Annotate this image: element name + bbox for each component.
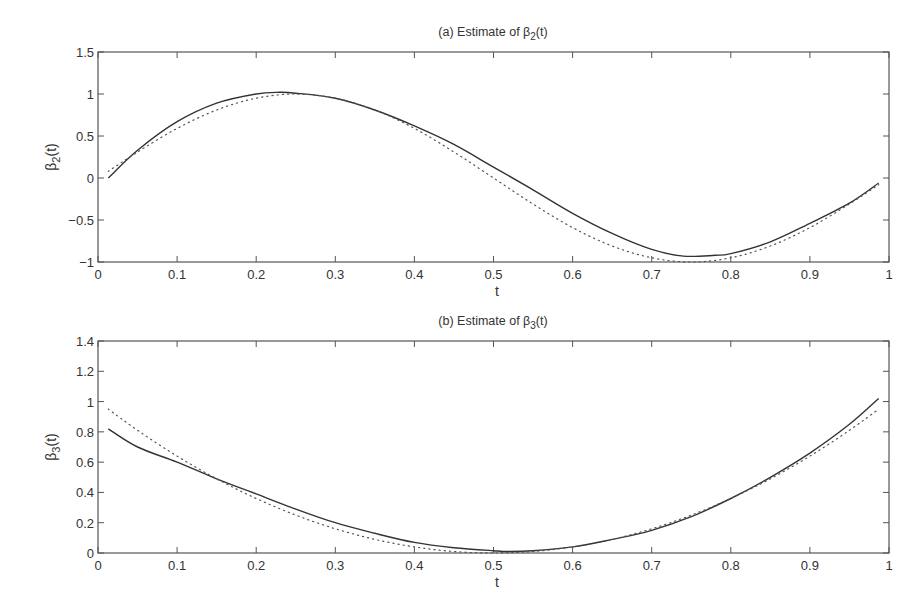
panel-a-true-line <box>108 94 878 262</box>
panel-a-estimate-line <box>108 92 878 256</box>
panel-b-x-tick-label: 0.3 <box>326 558 344 573</box>
panel-a-x-tick-label: 0 <box>94 267 101 282</box>
panel-b-x-tick-label: 0.8 <box>722 558 740 573</box>
panel-a-y-tick-label: −1 <box>79 255 94 270</box>
panel-a-x-tick-label: 0.8 <box>722 267 740 282</box>
panel-b-y-tick-label: 0.4 <box>76 485 94 500</box>
panel-b-plot-area: 00.10.20.30.40.50.60.70.80.9100.20.40.60… <box>76 334 893 573</box>
panel-a-title: (a) Estimate of β2(t) <box>438 25 547 42</box>
panel-a-axes-frame <box>98 52 889 262</box>
panel-a-x-tick-label: 0.1 <box>168 267 186 282</box>
figure: (a) Estimate of β2(t) 00.10.20.30.40.50.… <box>0 0 924 614</box>
panel-b-y-tick-label: 0.6 <box>76 455 94 470</box>
panel-a-x-tick-label: 0.9 <box>801 267 819 282</box>
panel-a-x-tick-label: 0.5 <box>484 267 502 282</box>
panel-b-x-tick-label: 0.9 <box>801 558 819 573</box>
panel-a-y-tick-label: 0.5 <box>76 129 94 144</box>
panel-a-x-label: t <box>495 283 499 299</box>
panel-b-estimate-line <box>108 399 878 552</box>
panel-b-y-tick-label: 0.8 <box>76 425 94 440</box>
panel-a-x-tick-label: 0.3 <box>326 267 344 282</box>
panel-a-y-tick-label: 0 <box>87 171 94 186</box>
panel-b-y-tick-label: 1 <box>87 395 94 410</box>
panel-b-x-tick-label: 0.6 <box>564 558 582 573</box>
panel-a-x-tick-label: 0.4 <box>405 267 423 282</box>
panel-a-y-tick-label: 1 <box>87 87 94 102</box>
panel-b-y-tick-label: 1.2 <box>76 364 94 379</box>
panel-b-axes-frame <box>98 341 889 553</box>
panel-a-x-tick-label: 0.7 <box>643 267 661 282</box>
panel-a-x-tick-label: 0.6 <box>564 267 582 282</box>
panel-a-x-tick-label: 1 <box>885 267 892 282</box>
panel-b-x-tick-label: 0.5 <box>484 558 502 573</box>
panel-b-y-tick-label: 1.4 <box>76 334 94 349</box>
panel-a-beta2-estimate: (a) Estimate of β2(t) 00.10.20.30.40.50.… <box>43 25 893 299</box>
panel-b-beta3-estimate: (b) Estimate of β3(t) 00.10.20.30.40.50.… <box>43 314 893 590</box>
panel-b-x-tick-label: 1 <box>885 558 892 573</box>
panel-b-y-tick-label: 0 <box>87 546 94 561</box>
panel-a-y-label: β2(t) <box>43 143 62 170</box>
panel-b-x-tick-label: 0.4 <box>405 558 423 573</box>
panel-b-y-tick-label: 0.2 <box>76 516 94 531</box>
panel-a-y-tick-label: −0.5 <box>68 213 94 228</box>
panel-b-x-tick-label: 0.1 <box>168 558 186 573</box>
panel-b-title: (b) Estimate of β3(t) <box>438 314 547 331</box>
panel-b-x-label: t <box>495 574 499 590</box>
panel-b-x-tick-label: 0.7 <box>643 558 661 573</box>
panel-a-y-tick-label: 1.5 <box>76 45 94 60</box>
panel-b-x-tick-label: 0 <box>94 558 101 573</box>
panel-b-y-label: β3(t) <box>43 433 62 460</box>
panel-b-x-tick-label: 0.2 <box>247 558 265 573</box>
panel-a-x-tick-label: 0.2 <box>247 267 265 282</box>
panel-a-plot-area: 00.10.20.30.40.50.60.70.80.91−1−0.500.51… <box>68 45 892 282</box>
